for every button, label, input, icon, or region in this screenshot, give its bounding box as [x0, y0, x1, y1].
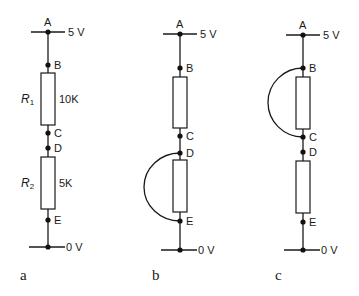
resistor-name-subscript: 1 [30, 98, 35, 107]
node-d-dot [177, 150, 182, 155]
node-e-dot [45, 217, 50, 222]
node-a-dot [177, 31, 182, 36]
supply-voltage-label: 5 V [68, 26, 85, 38]
node-a-dot [45, 29, 50, 34]
node-d-label: D [309, 146, 317, 158]
ground-voltage-label: 0 V [66, 241, 83, 253]
node-c-dot [300, 134, 305, 139]
node-b-label: B [186, 62, 193, 74]
node-c-dot [177, 133, 182, 138]
node-d-label: D [186, 147, 194, 159]
node-c-label: C [186, 130, 194, 142]
supply-voltage-label: 5 V [200, 28, 217, 40]
resistor-2 [41, 157, 55, 209]
resistor-1 [173, 77, 187, 128]
resistor-value: 5K [59, 177, 73, 189]
circuit-c: ABCDE5 V0 Vc [268, 19, 340, 283]
supply-voltage-label: 5 V [323, 29, 340, 41]
circuit-a: 10KR15KR2ABCDE5 V0 Va [20, 16, 85, 283]
node-a-label: A [44, 16, 52, 28]
resistor-name: R2 [21, 176, 35, 191]
node-e-label: E [54, 214, 61, 226]
resistor-2 [173, 160, 187, 212]
circuit-caption: c [275, 267, 282, 283]
node-b-label: B [309, 62, 316, 74]
resistor-name: R1 [21, 92, 35, 107]
circuit-b: ABCDE5 V0 Vb [144, 18, 217, 283]
node-c-dot [45, 130, 50, 135]
node-e-dot [177, 218, 182, 223]
resistor-1 [296, 77, 310, 129]
resistor-name-letter: R [21, 176, 30, 190]
node-e-label: E [309, 216, 316, 228]
node-e-dot [300, 219, 305, 224]
circuit-caption: a [20, 267, 27, 283]
ground-node-dot [177, 247, 182, 252]
resistor-2 [296, 161, 310, 213]
node-b-dot [300, 65, 305, 70]
resistor-1 [41, 73, 55, 125]
ground-voltage-label: 0 V [321, 244, 338, 256]
resistor-name-letter: R [21, 92, 30, 106]
node-a-label: A [176, 18, 184, 30]
node-b-dot [45, 62, 50, 67]
resistor-value: 10K [59, 93, 79, 105]
node-d-dot [45, 145, 50, 150]
node-a-label: A [299, 19, 307, 31]
node-c-label: C [309, 131, 317, 143]
ground-node-dot [300, 247, 305, 252]
node-b-label: B [54, 59, 61, 71]
node-b-dot [177, 65, 182, 70]
node-c-label: C [54, 127, 62, 139]
node-d-dot [300, 149, 305, 154]
circuit-caption: b [152, 267, 160, 283]
node-a-dot [300, 32, 305, 37]
resistor-name-subscript: 2 [30, 182, 35, 191]
node-d-label: D [54, 142, 62, 154]
node-e-label: E [186, 215, 193, 227]
ground-node-dot [45, 244, 50, 249]
circuit-diagram: 10KR15KR2ABCDE5 V0 VaABCDE5 V0 VbABCDE5 … [0, 0, 359, 296]
ground-voltage-label: 0 V [198, 244, 215, 256]
